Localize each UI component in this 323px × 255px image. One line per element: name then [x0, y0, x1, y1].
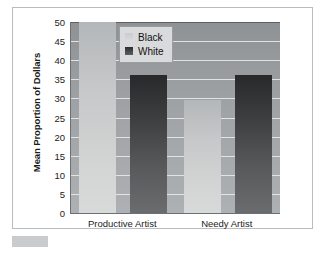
y-axis-tick-label: 5 — [39, 188, 65, 199]
y-axis-tick-label: 20 — [39, 131, 65, 142]
legend-item: White — [125, 44, 164, 58]
chart-figure: Mean Proportion of Dollars 0510152025303… — [0, 0, 323, 255]
bar-black-productive-artist — [79, 22, 116, 213]
bar-black-needy-artist — [184, 100, 221, 213]
y-axis-tick-label: 40 — [39, 55, 65, 66]
y-axis-tick-label: 35 — [39, 74, 65, 85]
chart-legend: BlackWhite — [119, 26, 173, 63]
y-axis-tick-labels: 05101520253035404550 — [39, 22, 65, 213]
bar-white-needy-artist — [235, 75, 272, 213]
y-axis-tick-label: 30 — [39, 93, 65, 104]
y-axis-tick-label: 15 — [39, 150, 65, 161]
y-axis-tick-label: 50 — [39, 17, 65, 28]
legend-swatch-icon — [125, 33, 133, 41]
x-axis-tick-labels: Productive ArtistNeedy Artist — [70, 218, 279, 234]
bar-white-productive-artist — [130, 75, 167, 213]
caption-swatch — [12, 236, 48, 247]
legend-swatch-icon — [125, 47, 133, 55]
y-axis-tick-label: 25 — [39, 112, 65, 123]
y-axis-tick-label: 10 — [39, 169, 65, 180]
plot-area — [70, 22, 280, 214]
legend-label: White — [138, 46, 164, 57]
legend-item: Black — [125, 30, 164, 44]
y-axis-tick-label: 45 — [39, 36, 65, 47]
x-axis-tick-label: Needy Artist — [201, 218, 252, 229]
x-axis-tick-label: Productive Artist — [88, 218, 157, 229]
y-axis-tick-label: 0 — [39, 208, 65, 219]
legend-label: Black — [138, 32, 162, 43]
chart-frame: Mean Proportion of Dollars 0510152025303… — [12, 7, 313, 229]
